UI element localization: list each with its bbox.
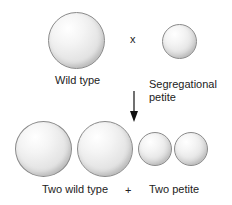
wild-type-cell-1 (15, 121, 72, 177)
two-petite-label: Two petite (149, 183, 199, 196)
segregational-petite-label-line2: petite (149, 91, 176, 104)
two-wild-type-label: Two wild type (42, 183, 108, 196)
petite-cell-1 (138, 132, 172, 166)
cross-symbol: x (130, 33, 136, 45)
wild-type-cell (48, 12, 105, 69)
petite-cell (162, 24, 197, 59)
segregational-petite-label-line1: Segregational (149, 78, 217, 91)
wild-type-label: Wild type (55, 74, 100, 87)
plus-symbol: + (125, 184, 131, 196)
wild-type-cell-2 (77, 121, 133, 177)
petite-cell-2 (174, 132, 208, 166)
down-arrow-icon (129, 91, 139, 123)
